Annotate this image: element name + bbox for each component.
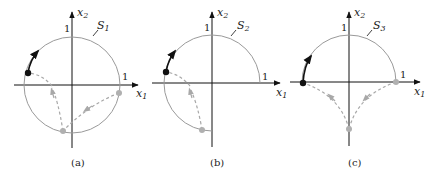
solid-arrow — [166, 51, 175, 72]
start-point — [199, 127, 205, 133]
dashed-trajectory — [190, 88, 202, 130]
figure-canvas: 1 1 x1 x2 S1 (a) 1 1 x1 x2 S2 (b) — [0, 0, 437, 177]
x2-axis-label: x2 — [217, 6, 228, 20]
tick-y-label: 1 — [204, 22, 210, 33]
caption-b: (b) — [210, 157, 224, 168]
set-label-leader — [231, 30, 236, 36]
panel-b: 1 1 x1 x2 S2 (b) — [152, 6, 287, 168]
dashed-trajectory — [303, 83, 349, 129]
end-point — [163, 69, 169, 75]
dashed-trajectory — [166, 72, 190, 86]
end-point — [25, 70, 31, 76]
x2-axis-label: x2 — [354, 6, 365, 20]
dashed-trajectory — [52, 88, 63, 131]
x1-axis-label: x1 — [414, 85, 425, 99]
start-point — [116, 90, 122, 96]
panel-c: 1 1 x1 x2 S3 (c) — [290, 6, 425, 168]
caption-a: (a) — [71, 157, 85, 168]
caption-c: (c) — [348, 157, 362, 168]
set-label-s2: S2 — [237, 19, 250, 33]
end-point — [300, 80, 306, 86]
set-label-leader — [367, 30, 372, 36]
tick-x-label: 1 — [122, 71, 128, 82]
tick-x-label: 1 — [262, 71, 268, 82]
x1-axis-label: x1 — [136, 87, 147, 101]
dashed-trajectory — [63, 93, 119, 131]
intermediate-point — [60, 128, 66, 134]
tick-y-label: 1 — [341, 22, 347, 33]
tick-y-label: 1 — [64, 23, 70, 34]
tick-x-label: 1 — [400, 69, 406, 80]
dashed-trajectory — [349, 82, 396, 129]
panel-a: 1 1 x1 x2 S1 (a) — [14, 6, 147, 168]
x2-axis-label: x2 — [77, 6, 88, 20]
set-label-s3: S3 — [373, 19, 386, 33]
start-point — [393, 79, 399, 85]
intermediate-point — [346, 126, 352, 132]
set-label-s1: S1 — [97, 19, 110, 33]
x1-axis-label: x1 — [276, 86, 287, 100]
dashed-trajectory — [28, 73, 52, 86]
